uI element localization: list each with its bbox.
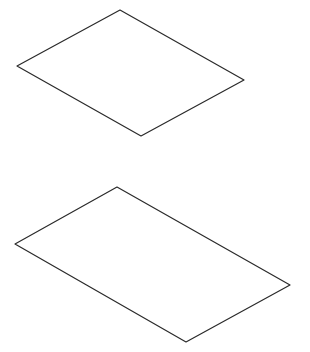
diagram-canvas: [0, 0, 310, 352]
bottom-parallelogram: [15, 187, 290, 342]
top-parallelogram: [17, 10, 244, 136]
